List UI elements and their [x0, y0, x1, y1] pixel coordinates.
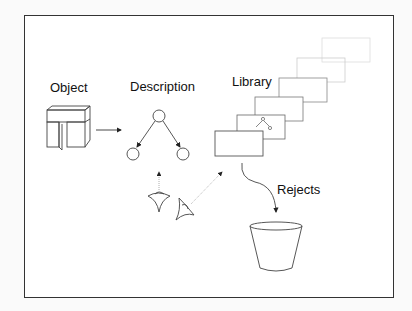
arrow-viewer-to-library [191, 172, 222, 204]
diagram-canvas [0, 0, 412, 311]
stacked-cards-icon [215, 38, 370, 156]
arrow-library-to-rejects [242, 163, 276, 212]
object-block-icon [47, 106, 90, 150]
tree-graph-icon [127, 110, 189, 160]
eye-viewpoint-icon [148, 192, 194, 220]
bucket-icon [250, 222, 302, 271]
